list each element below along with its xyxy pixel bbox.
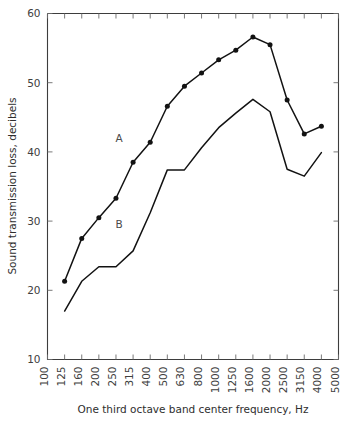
data-point bbox=[113, 196, 118, 201]
y-tick-label: 50 bbox=[27, 77, 40, 89]
x-tick-label: 630 bbox=[174, 367, 186, 387]
x-tick-label: 1600 bbox=[243, 367, 255, 394]
x-tick-label: 315 bbox=[123, 367, 135, 387]
x-tick-label: 125 bbox=[55, 367, 67, 387]
x-tick-label: 1000 bbox=[209, 367, 221, 394]
data-point bbox=[233, 48, 238, 53]
x-tick-label: 4000 bbox=[311, 367, 323, 394]
series-annotation-B: B bbox=[115, 218, 122, 230]
axis-ticks bbox=[48, 14, 339, 360]
x-axis-tick-labels: 1001251602002503154005006308001000125016… bbox=[38, 367, 341, 394]
data-point bbox=[268, 42, 273, 47]
x-tick-label: 250 bbox=[106, 367, 118, 387]
data-point bbox=[131, 160, 136, 165]
y-tick-label: 40 bbox=[27, 146, 40, 158]
x-tick-label: 200 bbox=[89, 367, 101, 387]
x-tick-label: 160 bbox=[72, 367, 84, 387]
series-line-B bbox=[65, 99, 322, 311]
data-point bbox=[285, 98, 290, 103]
sound-transmission-loss-chart: 102030405060 100125160200250315400500630… bbox=[0, 0, 353, 421]
x-tick-label: 3150 bbox=[294, 367, 306, 394]
data-point bbox=[79, 236, 84, 241]
data-point bbox=[250, 35, 255, 40]
data-point bbox=[165, 104, 170, 109]
data-point bbox=[62, 279, 67, 284]
x-tick-label: 400 bbox=[140, 367, 152, 387]
axis-frame bbox=[48, 14, 339, 360]
y-axis-title: Sound transmission loss, decibels bbox=[6, 97, 18, 274]
chart-figure: 102030405060 100125160200250315400500630… bbox=[0, 0, 353, 421]
data-series-group bbox=[62, 35, 324, 312]
data-point bbox=[319, 124, 324, 129]
series-annotations: AB bbox=[115, 132, 123, 231]
data-point bbox=[182, 84, 187, 89]
y-tick-label: 10 bbox=[27, 353, 40, 365]
y-tick-label: 30 bbox=[27, 215, 40, 227]
data-point bbox=[302, 131, 307, 136]
data-point bbox=[216, 57, 221, 62]
x-tick-label: 800 bbox=[192, 367, 204, 387]
series-annotation-A: A bbox=[115, 132, 123, 144]
data-point bbox=[148, 140, 153, 145]
series-B bbox=[65, 99, 322, 311]
x-tick-label: 2500 bbox=[277, 367, 289, 394]
x-axis-title: One third octave band center frequency, … bbox=[78, 403, 309, 415]
y-axis-tick-labels: 102030405060 bbox=[27, 7, 40, 365]
y-tick-label: 60 bbox=[27, 7, 40, 19]
x-tick-label: 1250 bbox=[226, 367, 238, 394]
x-tick-label: 100 bbox=[38, 367, 50, 387]
data-point bbox=[199, 71, 204, 76]
data-point bbox=[96, 215, 101, 220]
x-tick-label: 500 bbox=[157, 367, 169, 387]
chart-axes bbox=[48, 14, 339, 360]
y-tick-label: 20 bbox=[27, 284, 40, 296]
x-tick-label: 5000 bbox=[329, 367, 341, 394]
x-tick-label: 2000 bbox=[260, 367, 272, 394]
